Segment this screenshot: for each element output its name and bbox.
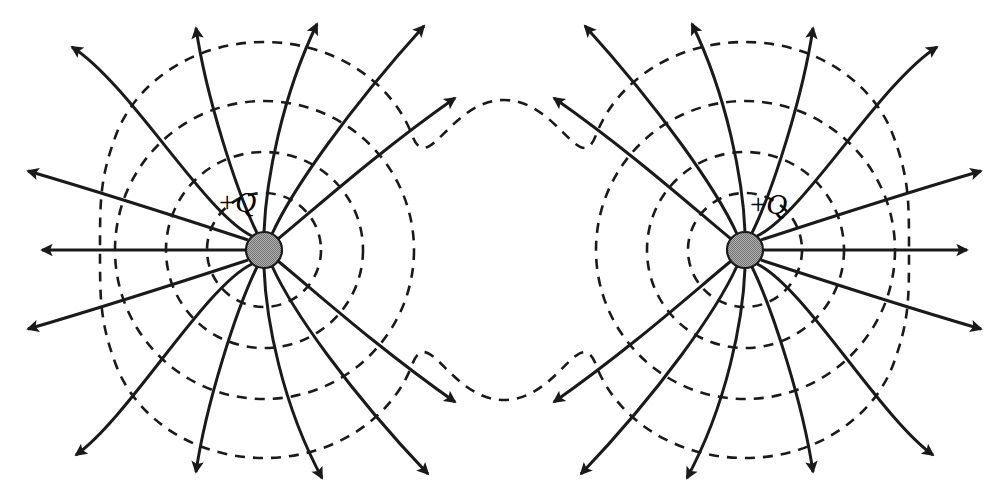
charge-left-dot xyxy=(246,232,282,268)
charge-right-plus-sign: + xyxy=(750,188,766,220)
charge-right-label: +Q xyxy=(750,188,787,221)
charge-left-plus-sign: + xyxy=(219,186,235,218)
charge-right-dot xyxy=(727,232,763,268)
charge-right-symbol: Q xyxy=(766,188,787,220)
field-line-diagram xyxy=(0,0,1005,500)
charge-left-symbol: Q xyxy=(235,186,256,218)
charge-left-label: +Q xyxy=(219,186,256,219)
